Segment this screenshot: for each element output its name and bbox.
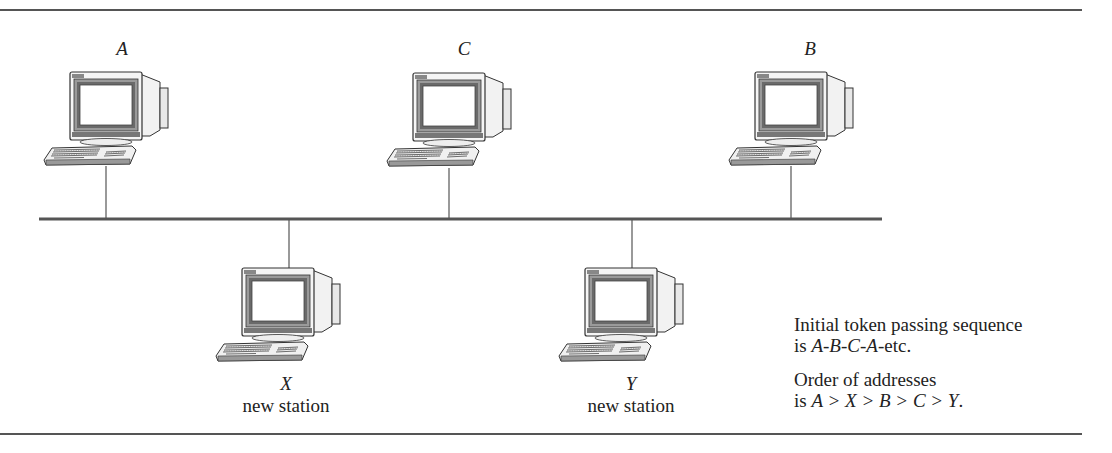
computer-icon-x bbox=[216, 268, 340, 361]
token-sequence-line-2: is A-B-C-A-etc. bbox=[794, 335, 1022, 356]
token-sequence-line-1: Initial token passing sequence bbox=[794, 314, 1022, 335]
station-label-b: B bbox=[730, 38, 890, 60]
address-order-note: Order of addresses is A > X > B > C > Y. bbox=[794, 369, 963, 411]
computer-icon-c bbox=[387, 73, 511, 166]
computer-icon-b bbox=[729, 72, 853, 165]
station-label-x: X new station bbox=[206, 373, 366, 417]
station-label-y: Y new station bbox=[551, 373, 711, 417]
computer-icon-y bbox=[559, 268, 683, 361]
token-sequence-note: Initial token passing sequence is A-B-C-… bbox=[794, 314, 1022, 356]
address-order-line-2: is A > X > B > C > Y. bbox=[794, 390, 963, 411]
computer-icon-a bbox=[44, 72, 168, 165]
address-order-line-1: Order of addresses bbox=[794, 369, 963, 390]
station-label-a: A bbox=[42, 38, 202, 60]
station-label-c: C bbox=[384, 38, 544, 60]
